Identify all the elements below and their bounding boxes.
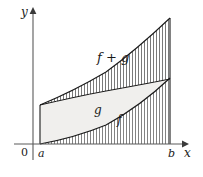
y-axis-label: y xyxy=(21,6,28,18)
curve-label-f-plus-g: f + g xyxy=(97,51,129,64)
x-tick-label-b: b xyxy=(168,148,175,159)
curve-label-g: g xyxy=(94,104,102,116)
x-axis-label: x xyxy=(184,147,191,159)
origin-label: 0 xyxy=(21,147,28,158)
x-tick-label-a: a xyxy=(38,148,45,159)
y-axis-arrowhead xyxy=(30,7,37,14)
area-between-curves-figure: f + g g f y x 0 a b xyxy=(0,0,203,177)
curve-label-f: f xyxy=(117,114,121,126)
